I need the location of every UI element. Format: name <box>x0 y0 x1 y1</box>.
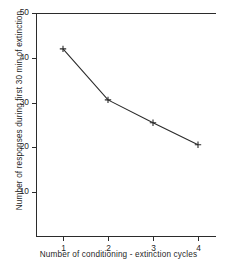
chart-figure: Number of responses during first 30 min … <box>0 0 225 267</box>
y-tick-label: 20 <box>20 142 29 151</box>
data-series-line <box>36 13 216 237</box>
y-tick-label: 10 <box>20 187 29 196</box>
y-tick-label: 30 <box>20 98 29 107</box>
x-tick-4: 4 <box>198 237 199 241</box>
x-tick-3: 3 <box>153 237 154 241</box>
x-tick-2: 2 <box>108 237 109 241</box>
marker-group <box>60 46 201 148</box>
y-tick-label: 40 <box>20 53 29 62</box>
line-path <box>63 49 198 145</box>
data-point-marker <box>150 120 156 126</box>
x-tick-1: 1 <box>63 237 64 241</box>
y-axis-title: Number of responses during first 30 min … <box>15 6 24 216</box>
plot-area: 1020304050 1234 <box>36 13 216 237</box>
y-tick-label: 50 <box>20 8 29 17</box>
data-point-marker <box>195 142 201 148</box>
x-axis-title: Number of conditioning - extinction cycl… <box>16 250 221 259</box>
